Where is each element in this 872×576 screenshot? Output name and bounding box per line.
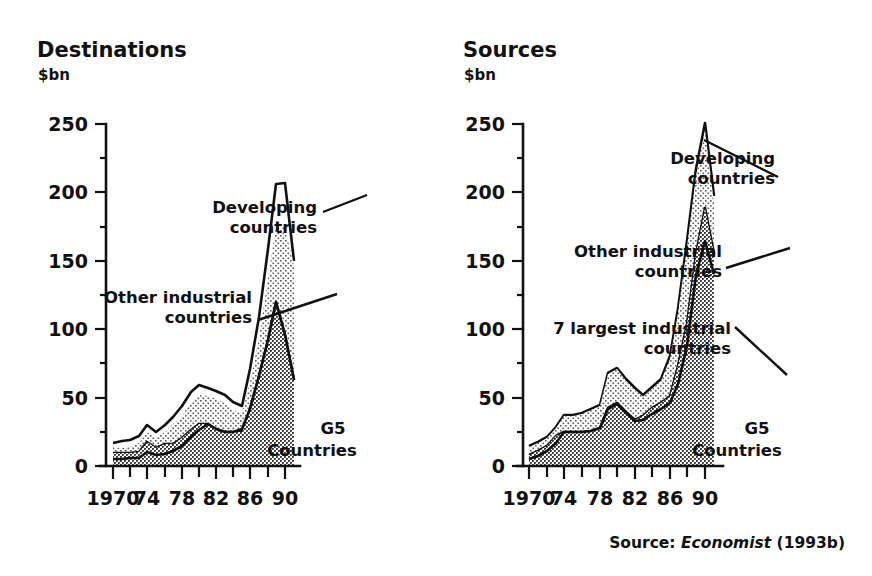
- x-tick-label: 78: [169, 487, 195, 509]
- annotation-line-2: countries: [165, 308, 252, 327]
- source-prefix: Source:: [609, 534, 681, 552]
- source-publication-name: Economist: [681, 534, 772, 552]
- y-tick-label: 250: [465, 113, 505, 135]
- annotation-line-1: Developing: [212, 198, 317, 217]
- figure-root: Destinations $bn: [0, 0, 872, 576]
- annotation-line-1: Other industrial: [104, 288, 252, 307]
- y-tick-label: 200: [48, 181, 88, 203]
- two-panel-area-chart: Destinations $bn: [0, 0, 872, 576]
- x-tick-label: 78: [587, 487, 613, 509]
- x-tick-label: 86: [657, 487, 683, 509]
- y-tick-label: 150: [465, 250, 505, 272]
- annotation-line-2: countries: [230, 218, 317, 237]
- panel-unit-sources: $bn: [464, 66, 496, 84]
- y-tick-label: 150: [48, 250, 88, 272]
- x-tick-label: 82: [203, 487, 229, 509]
- inner-label-line-1: G5: [744, 419, 769, 438]
- x-tick-label: 90: [692, 487, 718, 509]
- x-tick-label: 90: [272, 487, 298, 509]
- annotation-line-2: countries: [635, 262, 722, 281]
- inner-label-line-1: G5: [320, 419, 345, 438]
- source-credit: Source: Economist (1993b): [609, 534, 845, 552]
- y-tick-label: 100: [465, 318, 505, 340]
- y-tick-label: 250: [48, 113, 88, 135]
- x-tick-label: 1970: [87, 487, 140, 509]
- y-tick-label: 0: [492, 455, 505, 477]
- y-tick-label: 50: [62, 387, 88, 409]
- source-suffix: (1993b): [771, 534, 845, 552]
- y-tick-label: 0: [75, 455, 88, 477]
- annotation-line-2: countries: [644, 339, 731, 358]
- annotation-line-1: Other industrial: [574, 242, 722, 261]
- panel-title-sources: Sources: [463, 38, 557, 62]
- x-tick-label: 74: [551, 487, 577, 509]
- panel-unit-destinations: $bn: [38, 66, 70, 84]
- panel-title-destinations: Destinations: [37, 38, 187, 62]
- y-tick-label: 50: [479, 387, 505, 409]
- inner-label-line-2: Countries: [267, 441, 357, 460]
- x-tick-label: 82: [622, 487, 648, 509]
- y-tick-label: 200: [465, 181, 505, 203]
- y-tick-label: 100: [48, 318, 88, 340]
- annotation-line-2: countries: [688, 169, 775, 188]
- x-tick-label: 86: [237, 487, 263, 509]
- annotation-line-1: 7 largest industrial: [553, 319, 731, 338]
- x-tick-label: 1970: [503, 487, 556, 509]
- annotation-line-1: Developing: [670, 149, 775, 168]
- inner-label-line-2: Countries: [692, 441, 782, 460]
- x-tick-label: 74: [134, 487, 160, 509]
